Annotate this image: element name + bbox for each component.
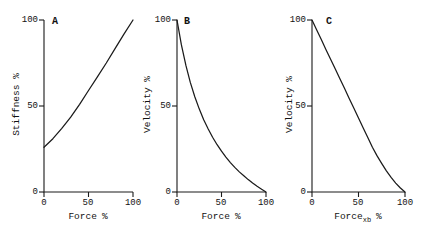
panel-b-xtick-100: 100 [254, 198, 278, 208]
panel-c-xtick-0: 0 [300, 198, 324, 208]
panel-b-y-axis-label: Velocity % [142, 50, 153, 160]
panel-a-xtick-0: 0 [32, 198, 56, 208]
panel-a-x-axis-label-unit: % [102, 211, 108, 222]
panel-c-xtick-100: 100 [393, 198, 417, 208]
panel-a-ytick-100: 100 [16, 15, 38, 25]
panel-a-x-axis-label-text: Force [68, 211, 97, 222]
panel-c-ytick-100: 100 [284, 15, 306, 25]
panel-c-xtick-50: 50 [346, 198, 370, 208]
panel-c-x-axis-label-sub: xb [363, 216, 371, 224]
panel-c-x-axis-label-unit: % [376, 211, 382, 222]
panel-b-x-axis-label: Force% [181, 211, 261, 224]
panel-b-ytick-0: 0 [149, 187, 171, 197]
panel-b-ytick-100: 100 [149, 15, 171, 25]
panel-c-y-axis-label: Velocity % [284, 50, 295, 160]
panel-letter-c: C [322, 16, 336, 27]
panel-b-x-axis-label-unit: % [235, 211, 241, 222]
three-panel-line-figure: A 100 50 0 0 50 100 Force% Stiffness % B… [0, 0, 425, 239]
panel-b-x-axis-label-text: Force [201, 211, 230, 222]
curve-C [312, 20, 405, 192]
panel-a-axes-and-curve [39, 20, 133, 197]
panel-c-x-axis-label: Forcexb% [318, 211, 398, 224]
panel-b-xtick-0: 0 [165, 198, 189, 208]
panel-a-xtick-50: 50 [76, 198, 100, 208]
panel-a-x-axis-label: Force% [48, 211, 128, 224]
panel-c-ytick-0: 0 [284, 187, 306, 197]
panel-c-x-axis-label-text: Force [334, 211, 363, 222]
panel-a-y-axis-label: Stiffness % [11, 50, 22, 160]
panel-b-xtick-50: 50 [209, 198, 233, 208]
panel-b-axes-and-curve [172, 20, 266, 197]
panel-a-xtick-100: 100 [121, 198, 145, 208]
panel-letter-b: B [180, 16, 194, 27]
panel-letter-a: A [48, 16, 62, 27]
curve-A [44, 20, 133, 147]
panel-a-ytick-0: 0 [16, 187, 38, 197]
panel-c-axes-and-curve [307, 20, 405, 197]
curve-B [177, 20, 266, 192]
